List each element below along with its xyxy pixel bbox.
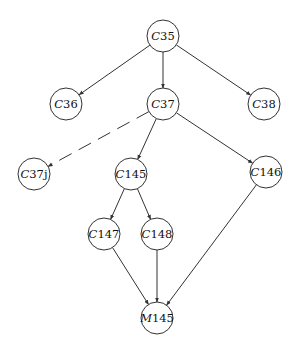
node-c37j: C37j [18, 158, 50, 190]
edge-c35-c38 [176, 45, 250, 95]
node-label: C38 [252, 97, 275, 111]
edge-c147-m145 [113, 248, 149, 305]
diagram-canvas: C35C36C37C38C37jC145C146C147C148M145 [0, 0, 296, 355]
node-c147: C147 [88, 218, 120, 250]
nodes-group: C35C36C37C38C37jC145C146C147C148M145 [18, 20, 282, 334]
node-c36: C36 [50, 88, 82, 120]
node-c148: C148 [141, 218, 173, 250]
node-label: C37 [151, 97, 174, 111]
node-label: M145 [139, 311, 174, 325]
node-label: C36 [54, 97, 77, 111]
node-c145: C145 [115, 158, 147, 190]
node-c37: C37 [147, 88, 179, 120]
edge-c145-c147 [111, 189, 125, 220]
node-label: C145 [116, 167, 147, 181]
edge-c146-m145 [167, 185, 257, 305]
edge-c145-c148 [137, 189, 150, 220]
node-c35: C35 [147, 20, 179, 52]
node-m145: M145 [139, 302, 174, 334]
node-label: C147 [89, 227, 120, 241]
edge-c37-c145 [138, 119, 157, 160]
edge-c37-c146 [176, 113, 252, 163]
node-label: C35 [151, 29, 174, 43]
node-c146: C146 [250, 156, 282, 188]
node-c38: C38 [248, 88, 280, 120]
edges-group [48, 45, 256, 305]
node-label: C37j [20, 167, 47, 181]
node-label: C148 [142, 227, 173, 241]
node-label: C146 [251, 165, 282, 179]
edge-c35-c36 [79, 45, 150, 95]
